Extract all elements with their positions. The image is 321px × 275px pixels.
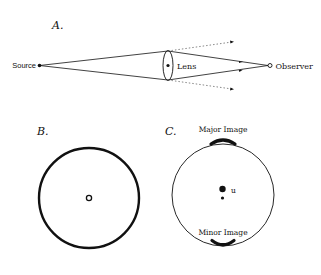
- ray-lower-to-lens: [40, 66, 169, 81]
- lens-center-point: [166, 64, 169, 67]
- dotted-ray-lower-arrow-icon: [230, 88, 234, 91]
- dotted-ray-lower: [168, 80, 232, 89]
- panel-b: B.: [36, 125, 139, 248]
- panel-b-label: B.: [36, 125, 49, 138]
- dotted-ray-upper-arrow-icon: [230, 41, 234, 44]
- ray-upper-to-lens: [40, 51, 169, 66]
- minor-image-label: Minor Image: [198, 228, 248, 237]
- major-image-label: Major Image: [199, 125, 248, 134]
- einstein-ring: [39, 148, 139, 248]
- u-label: u: [231, 186, 236, 195]
- major-image-arc: [211, 140, 235, 144]
- lens-center-ring: [86, 195, 91, 200]
- source-label: Source: [12, 61, 36, 70]
- panel-c: C. Major Image u Minor Image: [165, 125, 274, 246]
- dotted-ray-upper: [168, 42, 232, 51]
- lensing-diagram: A. Source Lens Observer B. C. Major: [0, 0, 321, 275]
- source-position-point: [221, 196, 224, 199]
- observer-label: Observer: [276, 62, 314, 71]
- observer-point: [268, 64, 272, 68]
- panel-a-label: A.: [51, 19, 63, 32]
- lens-label: Lens: [177, 62, 196, 71]
- minor-image-arc: [212, 241, 234, 245]
- panel-c-label: C.: [165, 125, 177, 138]
- lens-mass-point: [219, 186, 225, 192]
- panel-a: A. Source Lens Observer: [12, 19, 313, 91]
